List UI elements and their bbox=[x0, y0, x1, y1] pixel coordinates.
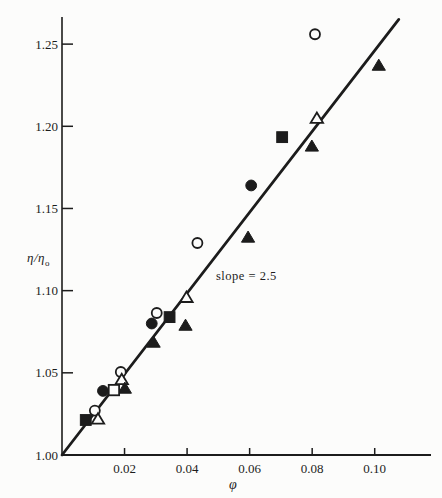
marker-filled-circle bbox=[246, 180, 257, 191]
marker-filled-triangle bbox=[241, 231, 254, 242]
x-tick-label: 0.06 bbox=[238, 461, 261, 476]
marker-filled-square bbox=[164, 312, 175, 323]
y-tick-label: 1.20 bbox=[35, 119, 58, 134]
slope-annotation: slope = 2.5 bbox=[216, 269, 277, 284]
marker-open-square bbox=[109, 385, 119, 395]
x-tick-label: 0.10 bbox=[363, 461, 386, 476]
y-axis-label-subscript: o bbox=[45, 258, 50, 268]
y-axis-label-main: η/η bbox=[27, 250, 45, 265]
marker-open-circle bbox=[192, 238, 202, 248]
x-tick-label: 0.04 bbox=[176, 461, 199, 476]
marker-filled-circle bbox=[146, 318, 157, 329]
marker-filled-triangle bbox=[179, 319, 192, 330]
marker-open-circle bbox=[152, 308, 162, 318]
x-tick-label: 0.02 bbox=[113, 461, 136, 476]
x-axis-label: φ bbox=[229, 477, 237, 493]
x-tick-label: 0.08 bbox=[301, 461, 324, 476]
y-axis-label: η/ηo bbox=[27, 250, 50, 268]
y-tick-label: 1.10 bbox=[35, 283, 58, 298]
marker-filled-triangle bbox=[305, 140, 318, 151]
marker-open-triangle bbox=[180, 292, 192, 302]
y-tick-label: 1.00 bbox=[35, 448, 58, 463]
y-tick-label: 1.15 bbox=[35, 201, 58, 216]
marker-filled-circle bbox=[98, 386, 109, 397]
y-tick-label: 1.05 bbox=[35, 365, 58, 380]
viscosity-scatter-chart: 1.001.051.101.151.201.250.020.040.060.08… bbox=[0, 0, 442, 498]
marker-filled-triangle bbox=[372, 59, 385, 70]
marker-open-circle bbox=[310, 29, 320, 39]
y-tick-label: 1.25 bbox=[35, 37, 58, 52]
plot-canvas: 1.001.051.101.151.201.250.020.040.060.08… bbox=[0, 0, 442, 498]
marker-filled-square bbox=[80, 415, 91, 426]
marker-filled-square bbox=[277, 132, 288, 143]
